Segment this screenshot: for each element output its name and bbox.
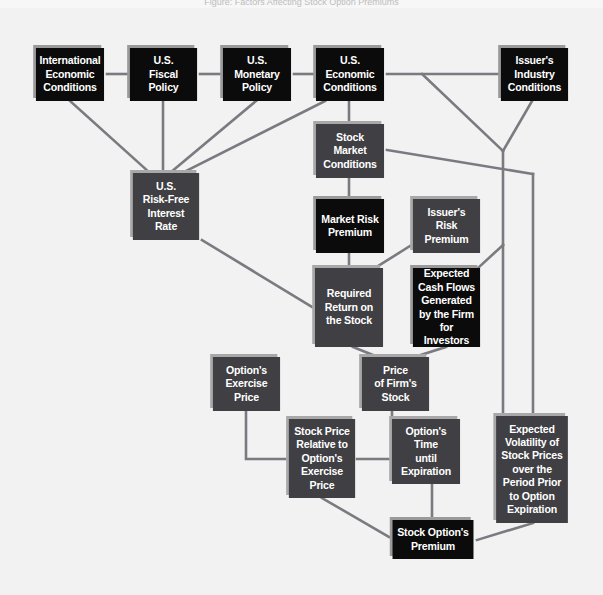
node-label: Issuer's Risk Premium xyxy=(425,206,469,246)
node-stock-price-relative-to-exercise: Stock Price Relative to Option's Exercis… xyxy=(289,419,355,498)
node-expected-cash-flows: Expected Cash Flows Generated by the Fir… xyxy=(413,268,480,347)
node-label: Issuer's Industry Conditions xyxy=(508,54,561,94)
edge-required-to-price xyxy=(353,347,378,357)
node-label: Option's Exercise Price xyxy=(225,364,267,404)
node-options-time-until-expiration: Option's Time until Expiration xyxy=(392,419,460,484)
edge-price-to-relative xyxy=(357,411,392,459)
edge-junction-to-cashflows xyxy=(478,245,503,268)
node-stock-options-premium: Stock Option's Premium xyxy=(393,520,474,559)
node-label: U.S. Fiscal Policy xyxy=(148,54,178,94)
node-required-return-on-stock: Required Return on the Stock xyxy=(315,268,383,347)
node-us-economic-conditions: U.S. Economic Conditions xyxy=(316,48,384,101)
node-stock-market-conditions: Stock Market Conditions xyxy=(316,124,384,178)
node-label: Stock Option's Premium xyxy=(397,526,469,553)
edge-economic-to-riskfree xyxy=(182,101,325,173)
node-issuers-risk-premium: Issuer's Risk Premium xyxy=(413,199,480,253)
edge-international-to-riskfree xyxy=(70,101,150,173)
edge-economic-diagonal xyxy=(422,74,503,151)
node-market-risk-premium: Market Risk Premium xyxy=(316,199,384,253)
edge-monetary-to-riskfree xyxy=(170,101,256,173)
node-us-monetary-policy: U.S. Monetary Policy xyxy=(223,48,291,101)
node-label: Stock Market Conditions xyxy=(323,131,376,171)
node-international-economic-conditions: International Economic Conditions xyxy=(36,48,104,101)
node-issuers-industry-conditions: Issuer's Industry Conditions xyxy=(501,48,568,101)
node-label: Stock Price Relative to Option's Exercis… xyxy=(294,425,350,492)
node-label: U.S. Monetary Policy xyxy=(234,54,280,94)
node-label: Expected Volatility of Stock Prices over… xyxy=(501,423,562,517)
node-label: Required Return on the Stock xyxy=(325,287,373,327)
node-expected-volatility: Expected Volatility of Stock Prices over… xyxy=(496,416,568,523)
edge-relative-to-premium xyxy=(322,498,389,537)
node-options-exercise-price: Option's Exercise Price xyxy=(213,357,280,411)
node-label: International Economic Conditions xyxy=(39,54,100,94)
edge-volatility-to-premium xyxy=(477,523,533,540)
node-label: Expected Cash Flows Generated by the Fir… xyxy=(416,267,478,347)
node-label: Price of Firm's Stock xyxy=(374,364,417,404)
edge-cashflows-to-price xyxy=(414,347,446,357)
node-price-of-firms-stock: Price of Firm's Stock xyxy=(362,357,429,411)
node-us-risk-free-interest-rate: U.S. Risk-Free Interest Rate xyxy=(133,173,199,240)
node-label: U.S. Economic Conditions xyxy=(323,54,376,94)
edge-stockmarket-diagonal xyxy=(387,150,533,174)
node-us-fiscal-policy: U.S. Fiscal Policy xyxy=(130,48,197,101)
node-label: Market Risk Premium xyxy=(321,213,378,240)
node-label: Option's Time until Expiration xyxy=(401,425,451,479)
edge-industry-diagonal xyxy=(503,101,532,151)
node-label: U.S. Risk-Free Interest Rate xyxy=(143,180,190,234)
edge-exercise-to-relative xyxy=(246,411,286,459)
edge-riskfree-to-required xyxy=(202,240,312,307)
